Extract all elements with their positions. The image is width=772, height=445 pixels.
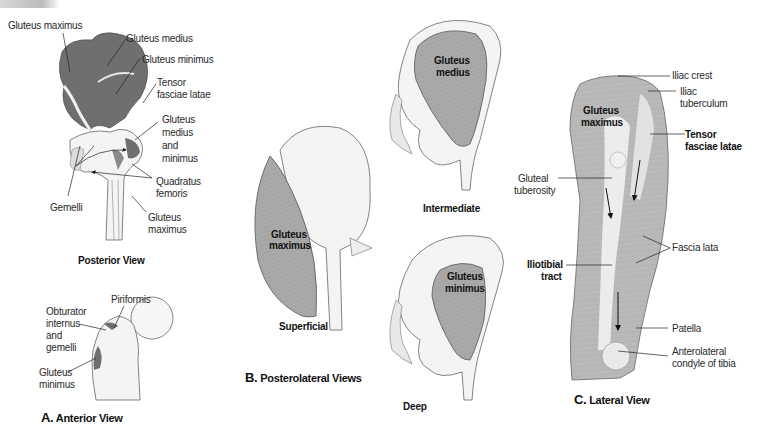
label-gluteus-superficial: Gluteus <box>271 229 307 240</box>
label-internus: internus <box>46 318 80 330</box>
label-gemelli-ant: gemelli <box>46 342 76 354</box>
panel-a-title: A. Anterior View <box>41 410 123 425</box>
label-iliotibial: Iliotibial <box>527 259 563 271</box>
label-minimus-deep: minimus <box>445 283 485 294</box>
label-femoris: femoris <box>156 188 187 200</box>
label-patella: Patella <box>672 323 701 335</box>
label-iliac-crest: Iliac crest <box>672 70 712 82</box>
panel-b-title-text: Posterolateral Views <box>260 372 361 384</box>
intermediate-view-drawing <box>390 20 501 190</box>
label-fasciae-latae-lateral: fasciae latae <box>685 141 742 153</box>
label-gluteal: Gluteal <box>518 173 548 185</box>
label-gluteus-maximus-lower-1: Gluteus <box>148 212 181 224</box>
label-gluteus-medius-minimus-1: Gluteus <box>162 114 195 126</box>
caption-posterior-view: Posterior View <box>78 255 145 266</box>
deep-view-drawing <box>390 236 504 400</box>
label-condyle-of-tibia: condyle of tibia <box>672 358 736 370</box>
label-fascia-lata: Fascia lata <box>672 242 718 254</box>
label-obturator: Obturator <box>46 306 86 318</box>
caption-deep: Deep <box>403 401 427 412</box>
label-gluteus-medius: Gluteus medius <box>126 33 193 45</box>
label-gluteus-medius-minimus-4: minimus <box>162 153 198 165</box>
label-medius-intermediate: medius <box>436 67 470 78</box>
label-iliac: Iliac <box>680 86 697 98</box>
label-gluteus-ant: Gluteus <box>39 367 72 379</box>
label-gluteus-intermediate: Gluteus <box>434 55 470 66</box>
anatomy-illustration <box>0 0 772 445</box>
label-tuberosity: tuberosity <box>514 185 555 197</box>
label-gluteus-maximus-lower-2: maximus <box>148 224 187 236</box>
label-gluteus-lateral: Gluteus <box>583 105 619 116</box>
label-quadratus: Quadratus <box>156 176 201 188</box>
label-gluteus-medius-minimus-3: and <box>162 140 178 152</box>
label-anterolateral: Anterolateral <box>672 346 726 358</box>
panel-a-letter: A. <box>41 410 53 425</box>
label-and: and <box>46 330 62 342</box>
label-tuberculum: tuberculum <box>680 98 727 110</box>
label-piriformis: Piriformis <box>111 294 151 306</box>
label-minimus-ant: minimus <box>39 379 75 391</box>
label-gluteus-minimus: Gluteus minimus <box>142 54 213 66</box>
label-gemelli: Gemelli <box>50 202 83 214</box>
label-maximus-lateral: maximus <box>581 117 623 128</box>
panel-b-letter: B. <box>245 370 257 385</box>
panel-c-title: C. Lateral View <box>574 392 650 407</box>
panel-b-title: B. Posterolateral Views <box>245 370 362 385</box>
label-maximus-superficial: maximus <box>269 240 311 251</box>
panel-c-title-text: Lateral View <box>589 394 649 406</box>
panel-a-title-text: Anterior View <box>56 412 123 424</box>
label-fasciae-latae: fasciae latae <box>157 89 211 101</box>
caption-intermediate: Intermediate <box>423 203 480 214</box>
caption-superficial: Superficial <box>279 321 328 332</box>
label-gluteus-deep: Gluteus <box>447 271 483 282</box>
panel-c-letter: C. <box>574 392 586 407</box>
label-gluteus-medius-minimus-2: medius <box>162 127 193 139</box>
label-tract: tract <box>541 271 562 283</box>
label-tensor: Tensor <box>157 77 186 89</box>
label-tensor-lateral: Tensor <box>685 129 716 141</box>
label-gluteus-maximus: Gluteus maximus <box>8 20 82 32</box>
